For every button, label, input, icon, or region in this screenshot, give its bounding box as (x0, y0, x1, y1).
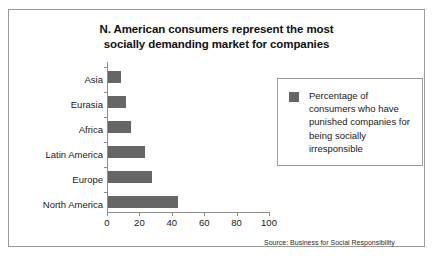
x-axis-tick-label: 80 (231, 217, 242, 228)
x-axis-tick-label: 60 (199, 217, 210, 228)
bar-asia (108, 71, 121, 83)
x-axis-tick (237, 212, 238, 216)
chart-title-line-1: N. American consumers represent the most (9, 22, 424, 37)
chart-frame: N. American consumers represent the most… (8, 9, 425, 247)
x-axis-line (107, 212, 269, 213)
x-axis-tick (139, 212, 140, 216)
bar-eurasia (108, 96, 126, 108)
legend-swatch-icon (289, 92, 299, 102)
bar-latin-america (108, 146, 145, 158)
category-label-africa: Africa (79, 125, 103, 135)
x-axis-tick (172, 212, 173, 216)
category-label-eurasia: Eurasia (71, 100, 103, 110)
category-label-north-america: North America (43, 200, 103, 210)
category-label-europe: Europe (72, 175, 103, 185)
bar-africa (108, 121, 131, 133)
bars-region (107, 62, 269, 212)
chart-title-line-2: socially demanding market for companies (9, 37, 424, 52)
plot-area: Asia Eurasia Africa Latin America Europe… (31, 62, 269, 227)
x-axis-tick-label: 100 (261, 217, 277, 228)
bar-europe (108, 171, 152, 183)
legend: Percentage of consumers who have punishe… (277, 78, 423, 166)
source-note: Source: Business for Social Responsibili… (264, 239, 395, 246)
chart-title: N. American consumers represent the most… (9, 22, 424, 52)
legend-label: Percentage of consumers who have punishe… (309, 89, 415, 155)
category-axis: Asia Eurasia Africa Latin America Europe… (31, 62, 107, 212)
x-axis-tick (107, 212, 108, 216)
x-axis-tick-label: 0 (104, 217, 109, 228)
x-axis-tick (269, 212, 270, 216)
category-label-asia: Asia (85, 75, 103, 85)
x-axis-tick (204, 212, 205, 216)
bar-north-america (108, 196, 178, 208)
x-axis-tick-label: 20 (134, 217, 145, 228)
x-axis-tick-label: 40 (167, 217, 178, 228)
category-label-latin-america: Latin America (45, 150, 103, 160)
